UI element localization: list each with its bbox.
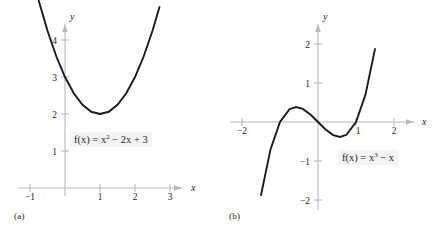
equation-a-rest: − 2x + 3 xyxy=(110,134,148,145)
y-axis-label-a: y xyxy=(69,11,75,22)
svg-text:−2: −2 xyxy=(237,126,247,136)
panel-a: −1 1 2 3 1 2 3 4 x y f(x) = x2 − 2x + 3 … xyxy=(0,0,218,237)
svg-text:2: 2 xyxy=(305,40,310,50)
equation-a-lhs: f(x) = x xyxy=(74,134,106,145)
svg-text:−2: −2 xyxy=(300,196,310,206)
y-axis-label-b: y xyxy=(322,11,328,22)
x-tick-labels-b: −2 1 2 xyxy=(237,126,397,136)
x-tick-labels-a: −1 1 2 3 xyxy=(25,192,173,202)
svg-text:−1: −1 xyxy=(300,157,310,167)
equation-label-a: f(x) = x2 − 2x + 3 xyxy=(70,132,152,147)
svg-text:2: 2 xyxy=(392,126,397,136)
x-axis-b xyxy=(230,119,414,125)
svg-text:3: 3 xyxy=(52,73,57,83)
equation-b-lhs: f(x) = x xyxy=(342,152,374,163)
graph-a: −1 1 2 3 1 2 3 4 x y xyxy=(0,0,218,237)
equation-label-b: f(x) = x3 − x xyxy=(338,150,398,165)
graph-b: −2 1 2 2 1 −1 −2 x y xyxy=(218,0,435,237)
panel-b: −2 1 2 2 1 −1 −2 x y f(x) = x3 − x (b) xyxy=(218,0,435,237)
caption-a: (a) xyxy=(14,211,25,221)
svg-text:1: 1 xyxy=(305,79,310,89)
equation-b-rest: − x xyxy=(378,152,394,163)
svg-text:1: 1 xyxy=(52,147,57,157)
svg-text:1: 1 xyxy=(356,126,361,136)
svg-text:2: 2 xyxy=(52,110,57,120)
svg-text:2: 2 xyxy=(133,192,138,202)
y-axis-b xyxy=(315,24,321,210)
caption-b: (b) xyxy=(229,211,240,221)
x-axis-label-b: x xyxy=(421,116,427,127)
svg-text:−1: −1 xyxy=(25,192,35,202)
svg-text:1: 1 xyxy=(98,192,103,202)
svg-text:3: 3 xyxy=(168,192,173,202)
curve-parabola xyxy=(39,1,160,114)
x-axis-label-a: x xyxy=(190,182,196,193)
y-axis-a xyxy=(62,24,68,196)
